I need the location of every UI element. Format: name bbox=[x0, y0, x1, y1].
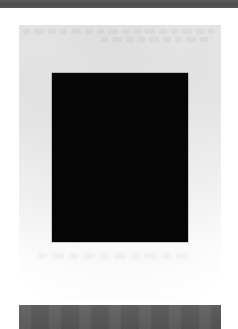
top-rule-bar bbox=[0, 0, 238, 8]
scanned-page-panel bbox=[19, 25, 221, 300]
bottom-bar-texture-overlay bbox=[19, 305, 221, 329]
page-footer-text bbox=[19, 25, 20, 26]
faint-footer-text bbox=[27, 253, 207, 269]
bottom-rule-bar bbox=[19, 305, 221, 329]
faint-text-line bbox=[23, 29, 217, 34]
faint-text-line bbox=[38, 253, 193, 259]
faint-header-text bbox=[23, 29, 217, 53]
black-image-plate bbox=[52, 73, 188, 242]
faint-text-line bbox=[101, 37, 214, 42]
page-header-text bbox=[19, 25, 20, 26]
